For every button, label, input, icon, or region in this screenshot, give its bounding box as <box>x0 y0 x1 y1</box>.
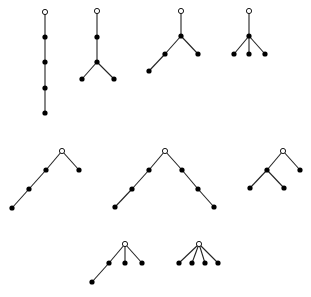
tree-node <box>106 260 111 265</box>
tree-7 <box>247 148 302 190</box>
root-node <box>196 241 201 246</box>
tree-node <box>122 260 127 265</box>
tree-node <box>129 186 134 191</box>
root-node <box>246 8 251 13</box>
tree-edge <box>46 151 62 170</box>
tree-node <box>139 260 144 265</box>
tree-node <box>246 51 251 56</box>
tree-9 <box>176 241 220 265</box>
tree-node <box>42 110 47 115</box>
tree-edge <box>267 151 283 170</box>
tree-edge <box>149 151 165 170</box>
tree-edge <box>115 189 132 207</box>
root-node <box>162 148 167 153</box>
root-node <box>42 9 47 14</box>
tree-edge <box>267 170 284 188</box>
tree-edge <box>132 170 149 189</box>
tree-node <box>146 167 151 172</box>
tree-8 <box>89 241 144 284</box>
tree-node <box>211 204 216 209</box>
tree-edge <box>149 54 165 71</box>
tree-edge <box>165 151 182 170</box>
root-node <box>280 148 285 153</box>
root-node <box>94 8 99 13</box>
tree-edge <box>234 36 249 54</box>
tree-edge <box>250 170 267 188</box>
tree-edge <box>283 151 300 170</box>
tree-node <box>111 76 116 81</box>
tree-3 <box>146 8 200 73</box>
tree-edge <box>181 36 198 54</box>
tree-node <box>297 167 302 172</box>
tree-node <box>195 51 200 56</box>
tree-edge <box>109 244 125 263</box>
tree-edge <box>29 170 46 189</box>
tree-edge <box>182 170 198 189</box>
tree-4 <box>231 8 267 56</box>
tree-node <box>247 185 252 190</box>
tree-node <box>42 59 47 64</box>
tree-node <box>42 34 47 39</box>
tree-node <box>94 34 99 39</box>
tree-node <box>146 68 151 73</box>
tree-edge <box>92 263 109 282</box>
root-node <box>178 8 183 13</box>
tree-edge <box>198 189 214 207</box>
tree-5 <box>9 148 81 210</box>
tree-edge <box>125 244 142 263</box>
tree-node <box>262 51 267 56</box>
tree-node <box>178 33 183 38</box>
tree-node <box>246 33 251 38</box>
tree-node <box>176 260 181 265</box>
tree-node <box>43 167 48 172</box>
tree-edge <box>97 62 114 79</box>
tree-node <box>26 186 31 191</box>
tree-edge <box>12 189 29 208</box>
tree-node <box>179 167 184 172</box>
root-node <box>59 148 64 153</box>
tree-node <box>189 260 194 265</box>
tree-node <box>89 279 94 284</box>
tree-node <box>9 205 14 210</box>
tree-node <box>281 185 286 190</box>
tree-node <box>215 260 220 265</box>
tree-node <box>76 167 81 172</box>
tree-node <box>94 59 99 64</box>
tree-edge <box>62 151 79 170</box>
tree-node <box>112 204 117 209</box>
tree-node <box>195 186 200 191</box>
tree-node <box>162 51 167 56</box>
tree-node <box>264 167 269 172</box>
tree-1 <box>42 9 47 115</box>
tree-node <box>42 85 47 90</box>
root-node <box>122 241 127 246</box>
tree-node <box>202 260 207 265</box>
tree-6 <box>112 148 216 209</box>
tree-diagram-canvas <box>0 0 311 297</box>
tree-node <box>79 76 84 81</box>
tree-edge <box>82 62 97 79</box>
tree-node <box>231 51 236 56</box>
tree-edge <box>165 36 181 54</box>
tree-2 <box>79 8 116 81</box>
tree-edge <box>249 36 265 54</box>
